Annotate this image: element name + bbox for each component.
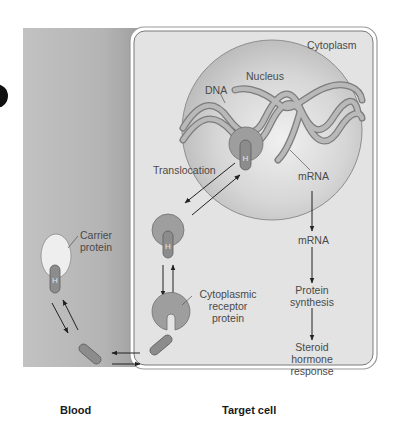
steroid-hormone-diagram: H H bbox=[0, 0, 395, 429]
steroid-response-label-3: response bbox=[290, 365, 333, 377]
dna-label: DNA bbox=[205, 84, 227, 96]
mrna-nuclear-label: mRNA bbox=[298, 170, 329, 182]
mrna-cytoplasm-label: mRNA bbox=[298, 234, 329, 246]
cytoplasmic-receptor-label-1: Cytoplasmic bbox=[199, 288, 256, 300]
diagram-canvas: H H bbox=[0, 0, 395, 429]
steroid-response-label-1: Steroid bbox=[295, 341, 328, 353]
cytoplasmic-receptor-label-2: receptor bbox=[209, 300, 248, 312]
protein-synthesis-label-2: synthesis bbox=[290, 296, 334, 308]
blood-region bbox=[23, 28, 138, 367]
carrier-protein-label-1: Carrier bbox=[80, 229, 112, 241]
carrier-protein-label-2: protein bbox=[80, 241, 112, 253]
cytoplasm-label: Cytoplasm bbox=[307, 39, 357, 51]
svg-text:H: H bbox=[165, 242, 171, 251]
blood-region-label: Blood bbox=[60, 404, 91, 416]
translocation-label: Translocation bbox=[153, 164, 216, 176]
target-cell-region-label: Target cell bbox=[222, 404, 276, 416]
panel-marker-dot bbox=[0, 84, 8, 108]
svg-text:H: H bbox=[243, 154, 249, 163]
protein-synthesis-label-1: Protein bbox=[295, 284, 328, 296]
cytoplasmic-receptor-label-3: protein bbox=[212, 312, 244, 324]
svg-text:H: H bbox=[52, 276, 58, 285]
steroid-response-label-2: hormone bbox=[291, 353, 332, 365]
nucleus-label: Nucleus bbox=[246, 70, 284, 82]
